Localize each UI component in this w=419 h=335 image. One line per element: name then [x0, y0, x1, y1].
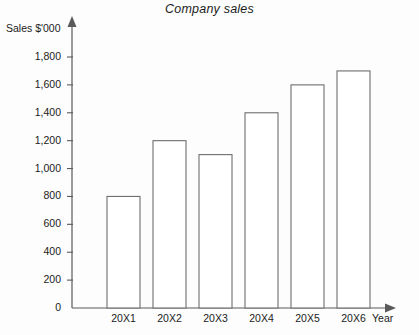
bar-20X5 — [291, 85, 324, 308]
y-tick-label: 1,000 — [19, 162, 61, 174]
x-tick-label: 20X6 — [331, 312, 377, 324]
bar-20X2 — [153, 141, 186, 308]
bars-group — [107, 71, 370, 308]
y-tick-label: 600 — [19, 217, 61, 229]
bar-chart: Company sales Sales $'000 Year 020040060… — [0, 0, 419, 335]
y-tick-label: 0 — [19, 301, 61, 313]
x-tick-label: 20X5 — [285, 312, 331, 324]
y-tick-label: 1,600 — [19, 78, 61, 90]
y-tick-label: 1,400 — [19, 106, 61, 118]
y-tick-label: 1,200 — [19, 134, 61, 146]
x-tick-label: 20X3 — [193, 312, 239, 324]
x-tick-label: 20X4 — [239, 312, 285, 324]
y-tick-label: 800 — [19, 189, 61, 201]
y-axis-arrow — [68, 16, 77, 27]
x-axis-arrow — [385, 304, 396, 313]
y-tick-label: 400 — [19, 245, 61, 257]
chart-canvas — [0, 0, 419, 335]
x-tick-label: 20X2 — [147, 312, 193, 324]
bar-20X1 — [107, 196, 140, 308]
bar-20X6 — [337, 71, 370, 308]
y-tick-label: 200 — [19, 273, 61, 285]
y-tick-label: 1,800 — [19, 50, 61, 62]
x-tick-label: 20X1 — [101, 312, 147, 324]
bar-20X4 — [245, 113, 278, 308]
bar-20X3 — [199, 155, 232, 308]
